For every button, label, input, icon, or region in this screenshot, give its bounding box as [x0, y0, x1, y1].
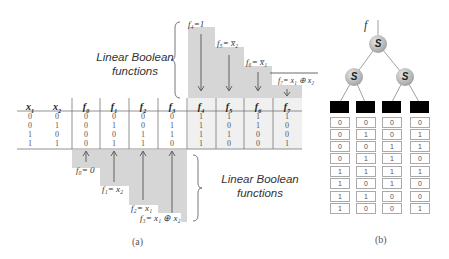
- right-s-node: S: [396, 68, 414, 86]
- cell: 0: [100, 112, 128, 121]
- cell: 0: [43, 112, 71, 121]
- bit-box: 1: [382, 178, 402, 189]
- cell: 0: [43, 130, 71, 139]
- caption-b: (b): [375, 234, 387, 245]
- label-f6: f₆= x̅₁: [246, 57, 267, 67]
- bit-box: 0: [382, 191, 402, 202]
- bit-box: 0: [356, 141, 376, 152]
- cell: 1: [187, 130, 215, 139]
- cell: 1: [100, 139, 128, 148]
- label-f1: f₁= x₂: [102, 184, 123, 194]
- bit-box: 1: [356, 153, 376, 164]
- cell: 1: [244, 112, 272, 121]
- cell: 1: [43, 121, 71, 130]
- cell: 1: [129, 130, 157, 139]
- bit-box: 0: [410, 153, 430, 164]
- cell: 1: [215, 112, 243, 121]
- bit-box: 1: [410, 141, 430, 152]
- bit-box: 1: [330, 191, 350, 202]
- bit-box: 1: [382, 141, 402, 152]
- cell: 0: [158, 139, 186, 148]
- label-f0: f₀= 0: [76, 165, 94, 175]
- cell: 1: [187, 139, 215, 148]
- bit-box: 0: [330, 153, 350, 164]
- cell: 0: [244, 139, 272, 148]
- bit-box: 0: [382, 203, 402, 214]
- panel-a-truth-table: x1 x2 f0 f1 f2 f3 f4 f5 f6 f7 0 0 0 0 0 …: [0, 0, 320, 259]
- label-f7: f₇= x₁ ⊕ x₂: [278, 76, 314, 85]
- cell: 1: [244, 121, 272, 130]
- bit-box: 1: [410, 166, 430, 177]
- cell: 1: [215, 130, 243, 139]
- cell: 0: [129, 121, 157, 130]
- bit-box: 0: [382, 117, 402, 128]
- cell: 0: [129, 112, 157, 121]
- bit-box: 0: [330, 129, 350, 140]
- bit-box: 1: [356, 191, 376, 202]
- cell: 0: [215, 139, 243, 148]
- label-f2: f₂= x₁: [131, 203, 152, 213]
- cell: 1: [187, 121, 215, 130]
- bottom-brace: [193, 155, 202, 221]
- cell: 0: [72, 121, 100, 130]
- cell: 1: [43, 139, 71, 148]
- cell: 0: [273, 130, 301, 139]
- cell: 1: [158, 130, 186, 139]
- root-label: f: [364, 18, 367, 33]
- cell: 1: [158, 121, 186, 130]
- black-leaf-3: [382, 101, 401, 113]
- cell: 0: [100, 130, 128, 139]
- bit-box: 0: [356, 178, 376, 189]
- bit-box: 0: [356, 117, 376, 128]
- bit-box: 1: [330, 203, 350, 214]
- bit-box: 1: [356, 129, 376, 140]
- label-f3: f₃= x₁ ⊕ x₂: [140, 213, 181, 223]
- top-group-label: Linear Boolean functions: [80, 50, 190, 78]
- label-f4: f₄=1: [188, 19, 204, 29]
- cell: 0: [158, 112, 186, 121]
- cell: 0: [72, 130, 100, 139]
- cell: 1: [16, 130, 44, 139]
- bit-box: 0: [410, 178, 430, 189]
- cell: 1: [273, 139, 301, 148]
- cell: 0: [72, 139, 100, 148]
- label-f5: f₅= x̅₂: [217, 38, 238, 48]
- caption-a: (a): [132, 236, 143, 247]
- cell: 1: [273, 112, 301, 121]
- bit-box: 0: [356, 203, 376, 214]
- cell: 0: [16, 121, 44, 130]
- cell: 1: [129, 139, 157, 148]
- bit-box: 0: [330, 141, 350, 152]
- cell: 0: [215, 121, 243, 130]
- bit-box: 1: [410, 129, 430, 140]
- bit-box: 0: [382, 129, 402, 140]
- left-s-node: S: [345, 68, 363, 86]
- root-s-node: S: [369, 35, 387, 53]
- cell: 0: [72, 112, 100, 121]
- black-leaf-4: [410, 101, 429, 113]
- bit-box: 1: [330, 178, 350, 189]
- cell: 0: [273, 121, 301, 130]
- bit-box: 0: [330, 117, 350, 128]
- cell: 0: [244, 130, 272, 139]
- cell: 0: [16, 112, 44, 121]
- bit-box: 1: [382, 153, 402, 164]
- black-leaf-2: [356, 101, 375, 113]
- bottom-shading: [72, 150, 187, 222]
- bottom-group-label: Linear Boolean functions: [205, 172, 315, 200]
- bit-box: 0: [410, 191, 430, 202]
- bit-box: 0: [410, 117, 430, 128]
- top-shading: [188, 27, 302, 98]
- bit-box: 1: [330, 166, 350, 177]
- bit-box: 1: [382, 166, 402, 177]
- cell: 1: [187, 112, 215, 121]
- panel-b-tree: f S S S 0 0 0 0 1 1 1 1 0 1 0 1 1 0 1 0 …: [320, 0, 449, 259]
- bit-box: 1: [410, 203, 430, 214]
- bit-box: 1: [356, 166, 376, 177]
- cell: 1: [16, 139, 44, 148]
- cell: 1: [100, 121, 128, 130]
- black-leaf-1: [330, 101, 349, 113]
